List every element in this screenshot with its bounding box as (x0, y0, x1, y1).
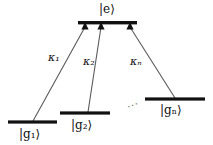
coupling-label-1-text: κ₁ (48, 51, 60, 64)
level-label-excited-text: |e⟩ (99, 2, 115, 16)
level-label-ground-2-text: |g₂⟩ (71, 118, 92, 132)
energy-level-diagram: |e⟩ |g₁⟩ |g₂⟩ |gₙ⟩ κ₁ κ₂ κₙ ··· (0, 0, 213, 145)
coupling-label-n-text: κₙ (130, 55, 142, 68)
level-label-ground-1: |g₁⟩ (19, 128, 40, 140)
level-label-ground-2: |g₂⟩ (71, 119, 92, 131)
diagram-canvas (0, 0, 213, 145)
level-label-ground-n-text: |gₙ⟩ (160, 103, 182, 117)
coupling-label-1: κ₁ (48, 52, 60, 63)
level-bar-excited (78, 21, 137, 24)
level-label-ground-n: |gₙ⟩ (160, 104, 182, 116)
level-bar-ground-2 (60, 111, 110, 114)
coupling-label-2: κ₂ (83, 56, 95, 67)
level-bar-ground-n (145, 97, 205, 100)
transition-line-2 (88, 27, 101, 112)
coupling-label-n: κₙ (130, 56, 142, 67)
level-label-ground-1-text: |g₁⟩ (19, 127, 40, 141)
level-bar-ground-1 (8, 120, 57, 123)
transition-arrows (33, 22, 175, 121)
level-label-excited: |e⟩ (99, 3, 115, 15)
transition-line-1 (33, 27, 85, 121)
coupling-label-2-text: κ₂ (83, 55, 95, 68)
